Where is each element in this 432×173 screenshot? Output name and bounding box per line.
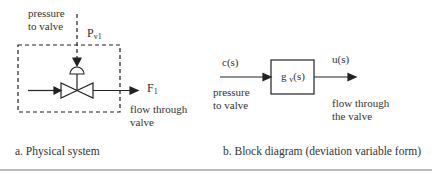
- caption-block: b. Block diagram (deviation variable for…: [223, 145, 421, 158]
- arrow-right-icon: [263, 74, 271, 81]
- actuator-dome-icon: [70, 67, 84, 74]
- control-valve-boundary: [18, 45, 120, 112]
- bottom-rule: [0, 169, 432, 171]
- block-flow-label: flow throughthe valve: [332, 97, 389, 123]
- caption-physical: a. Physical system: [15, 145, 100, 158]
- arrow-right-icon: [54, 87, 61, 94]
- flow-label: flow throughvalve: [130, 103, 187, 129]
- block-pressure-label: pressureto valve: [213, 86, 250, 112]
- arrow-right-icon: [348, 74, 356, 81]
- u-s-label: u(s): [332, 53, 349, 66]
- transfer-function-label: g v(s): [281, 70, 305, 86]
- arrow-right-icon: [130, 87, 138, 94]
- pv1-label: Pv1: [87, 27, 102, 43]
- f1-label: F1: [147, 82, 158, 98]
- arrow-down-icon: [73, 58, 81, 66]
- pressure-label: pressureto valve: [28, 7, 65, 33]
- c-s-label: c(s): [222, 56, 239, 69]
